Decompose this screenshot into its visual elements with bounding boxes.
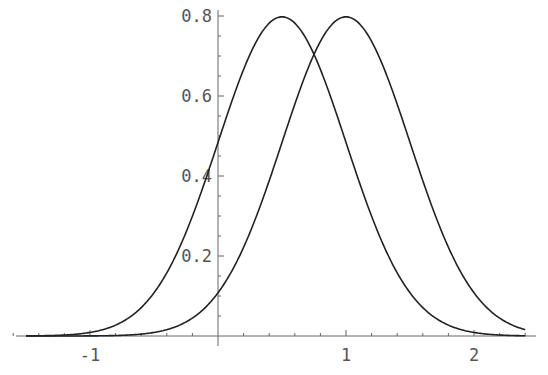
x-tick-label: -1 bbox=[80, 345, 100, 365]
plot-area: -1120.20.40.60.8 bbox=[0, 0, 548, 375]
y-tick-label: 0.6 bbox=[181, 86, 212, 106]
x-tick-label: 1 bbox=[341, 345, 351, 365]
y-tick-label: 0.2 bbox=[181, 246, 212, 266]
axes: -1120.20.40.60.8 bbox=[13, 6, 536, 365]
curve-series-1 bbox=[26, 17, 525, 336]
curves bbox=[26, 17, 525, 336]
x-tick-label: 2 bbox=[469, 345, 479, 365]
curve-series-2 bbox=[26, 17, 525, 336]
y-tick-label: 0.8 bbox=[181, 6, 212, 26]
